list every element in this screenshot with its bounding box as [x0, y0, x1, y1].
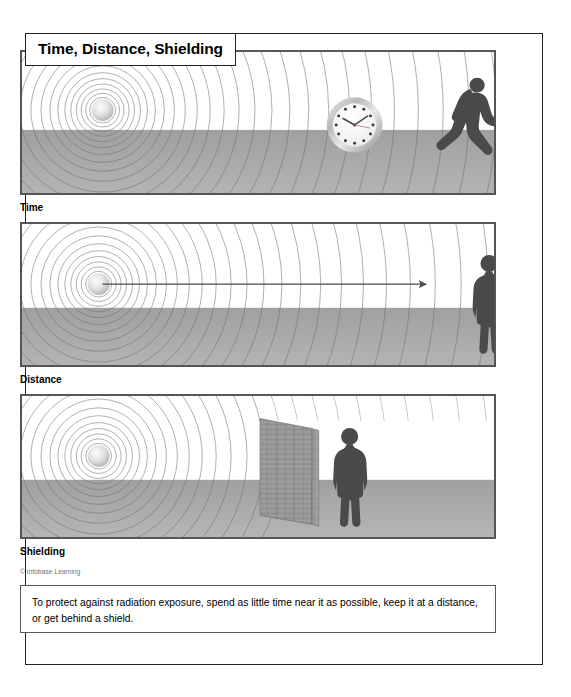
- panel-time: [20, 50, 496, 195]
- radiation-source: [92, 99, 114, 121]
- ground-plane: [21, 480, 495, 538]
- panel-distance: [20, 222, 496, 367]
- panel-distance-illustration: [21, 223, 495, 366]
- caption-box: To protect against radiation exposure, s…: [20, 585, 496, 633]
- panel-shielding: [20, 394, 496, 539]
- radiation-source: [88, 445, 110, 467]
- panel-label-distance: Distance: [20, 374, 62, 385]
- panel-shielding-illustration: [21, 395, 495, 538]
- clock-center-pin: [353, 123, 356, 126]
- panel-label-time: Time: [20, 202, 43, 213]
- caption-text: To protect against radiation exposure, s…: [32, 595, 484, 627]
- panel-label-shielding: Shielding: [20, 546, 65, 557]
- wall-clock: [327, 97, 383, 152]
- figure-title: Time, Distance, Shielding: [25, 33, 236, 66]
- credit-line: © Infobase Learning: [20, 568, 81, 575]
- brick-shield-wall: [260, 419, 319, 526]
- panel-time-illustration: [21, 51, 495, 194]
- ground-plane: [21, 130, 495, 194]
- ground-plane: [21, 308, 495, 366]
